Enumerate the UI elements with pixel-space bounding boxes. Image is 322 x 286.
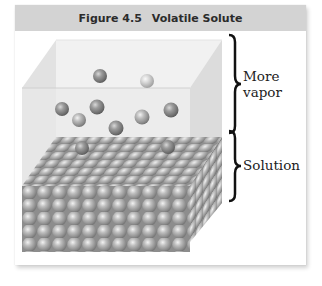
solution-label: Solution: [243, 157, 300, 173]
volatile-solute-diagram: [0, 0, 322, 286]
solution-brace-icon: [229, 131, 241, 201]
vapor-brace-icon: [229, 35, 241, 133]
vapor-label: More vapor: [243, 68, 282, 100]
vapor-particle: [140, 74, 154, 88]
vapor-particle: [72, 113, 86, 127]
vapor-particle: [109, 121, 124, 136]
vapor-particle: [55, 102, 69, 116]
vapor-label-line2: vapor: [243, 84, 282, 100]
vapor-particle: [164, 103, 179, 118]
solution-lattice: [22, 137, 222, 252]
vapor-particle: [135, 110, 150, 125]
vapor-particle: [90, 100, 105, 115]
vapor-label-line1: More: [243, 68, 282, 84]
vapor-particle: [93, 69, 107, 83]
